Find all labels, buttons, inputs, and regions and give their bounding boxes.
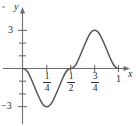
graph-canvas <box>0 0 139 126</box>
y-tick-label-3: 3 <box>8 25 13 35</box>
x-axis-label: x <box>128 69 132 79</box>
fraction-denominator: 4 <box>39 84 55 94</box>
x-tick-label-one-quarter: 1 4 <box>39 72 55 94</box>
x-tick-label-one-half: 1 2 <box>63 72 79 94</box>
fraction-numerator: 1 <box>63 72 79 82</box>
fraction-denominator: 2 <box>63 84 79 94</box>
y-axis-arrowhead <box>20 7 25 13</box>
x-tick-label-one: 1 <box>116 74 121 84</box>
sine-graph-figure: y x 3 −3 1 4 1 2 3 4 1 <box>0 0 139 126</box>
fraction-numerator: 1 <box>39 72 55 82</box>
y-axis-label: y <box>14 2 18 12</box>
y-tick-label-minus-3: −3 <box>1 101 12 111</box>
x-tick-label-three-quarters: 3 4 <box>87 72 103 94</box>
fraction-denominator: 4 <box>87 84 103 94</box>
fraction-numerator: 3 <box>87 72 103 82</box>
